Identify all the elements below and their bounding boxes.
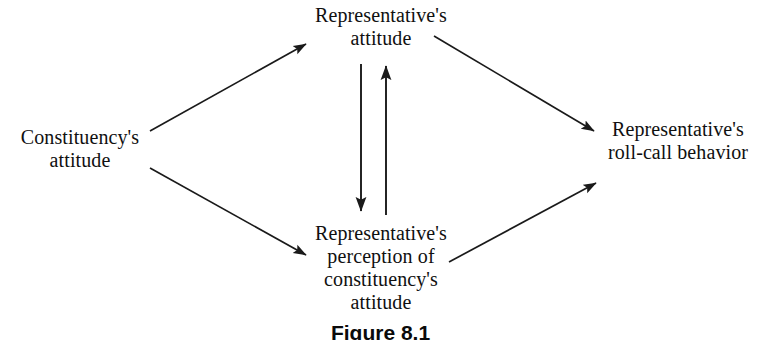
node-constituency-attitude: Constituency's attitude xyxy=(4,126,156,172)
node-label-line: Representative's xyxy=(292,222,470,245)
node-label-line: roll-call behavior xyxy=(598,141,758,164)
node-label-line: Representative's xyxy=(598,118,758,141)
figure-caption: Figure 8.1 xyxy=(0,322,761,340)
edge-representative-attitude-to-roll-call xyxy=(434,36,594,131)
node-label-line: Constituency's xyxy=(4,126,156,149)
node-label-line: attitude xyxy=(292,291,470,314)
node-representative-roll-call-behavior: Representative's roll-call behavior xyxy=(598,118,758,164)
node-label-line: Representative's xyxy=(296,4,466,27)
node-representative-perception-of-constituency-attitude: Representative's perception of constitue… xyxy=(292,222,470,314)
node-label-line: attitude xyxy=(4,149,156,172)
edge-constituency-to-representative-attitude xyxy=(150,44,306,131)
figure-diagram: Representative's attitude Constituency's… xyxy=(0,0,761,340)
node-label-line: attitude xyxy=(296,27,466,50)
edge-perception-to-roll-call xyxy=(449,183,596,262)
node-label-line: perception of xyxy=(292,245,470,268)
node-representative-attitude: Representative's attitude xyxy=(296,4,466,50)
edge-constituency-to-perception xyxy=(150,168,306,255)
node-label-line: constituency's xyxy=(292,268,470,291)
